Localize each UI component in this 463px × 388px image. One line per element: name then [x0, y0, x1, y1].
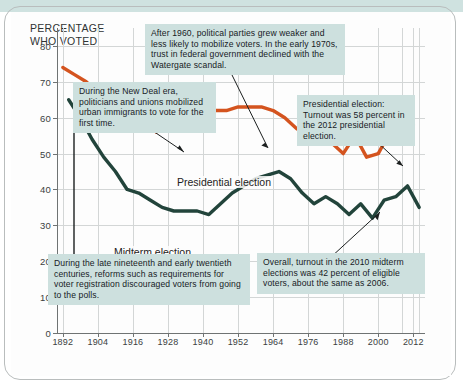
- y-axis-tick-mark: [53, 154, 57, 155]
- x-axis-tick-label: 1952: [228, 337, 249, 347]
- x-axis-tick-label: 1892: [52, 337, 73, 347]
- series-label-presidential: Presidential election: [175, 176, 273, 188]
- x-axis-tick-mark: [98, 333, 99, 337]
- x-axis-tick-label: 1928: [158, 337, 179, 347]
- y-axis-tick-mark: [53, 82, 57, 83]
- y-axis-tick-label: 60: [40, 112, 51, 123]
- annotation-watergate: After 1960, political parties grew weake…: [145, 24, 345, 75]
- y-axis-tick-label: 50: [40, 148, 51, 159]
- gridline-horizontal: [57, 154, 425, 155]
- y-axis-tick-mark: [53, 46, 57, 47]
- x-axis-line: [57, 333, 425, 334]
- x-axis-tick-mark: [273, 333, 274, 337]
- x-axis-tick-label: 1964: [263, 337, 284, 347]
- x-axis-tick-label: 1904: [87, 337, 108, 347]
- x-axis-tick-mark: [308, 333, 309, 337]
- y-axis-tick-label: 0: [46, 328, 51, 339]
- x-axis-tick-mark: [203, 333, 204, 337]
- x-axis-tick-label: 1988: [333, 337, 354, 347]
- y-axis-tick-label: 80: [40, 40, 51, 51]
- y-axis-tick-mark: [53, 225, 57, 226]
- x-axis-tick-mark: [343, 333, 344, 337]
- x-axis-tick-mark: [168, 333, 169, 337]
- voter-turnout-figure: PERCENTAGE WHO VOTED 01020304050607080 1…: [0, 0, 463, 388]
- x-axis-tick-label: 1940: [193, 337, 214, 347]
- x-axis-tick-label: 2000: [368, 337, 389, 347]
- x-axis-tick-label: 1976: [298, 337, 319, 347]
- gridline-horizontal: [57, 189, 425, 190]
- y-axis-tick-label: 40: [40, 184, 51, 195]
- y-axis-tick-mark: [53, 189, 57, 190]
- gridline-horizontal: [57, 225, 425, 226]
- x-axis-tick-mark: [63, 333, 64, 337]
- annotation-2012-presidential: Presidential election: Turnout was 58 pe…: [297, 95, 415, 146]
- x-axis-tick-label: 1916: [123, 337, 144, 347]
- x-axis-tick-mark: [413, 333, 414, 337]
- annotation-voter-registration: During the late nineteenth and early twe…: [48, 254, 250, 305]
- x-axis-tick-mark: [133, 333, 134, 337]
- x-axis-tick-mark: [378, 333, 379, 337]
- y-axis-tick-mark: [53, 118, 57, 119]
- y-axis-tick-label: 30: [40, 220, 51, 231]
- y-axis-tick-mark: [53, 333, 57, 334]
- x-axis-tick-label: 2012: [403, 337, 424, 347]
- annotation-2010-midterm: Overall, turnout in the 2010 midterm ele…: [257, 253, 425, 294]
- x-axis-tick-mark: [238, 333, 239, 337]
- y-axis-tick-label: 70: [40, 76, 51, 87]
- annotation-new-deal: During the New Deal era, politicians and…: [73, 82, 216, 133]
